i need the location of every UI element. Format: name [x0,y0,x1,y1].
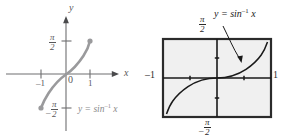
curve-equation-label: y = sin–1 x [78,103,118,115]
x-tick-label-neg1: –1 [145,70,155,80]
two-denominator: 2 [204,128,211,137]
left-graph-panel: y x 0 –1 1 π 2 – π 2 y = sin–1 x [0,0,141,138]
arcsine-graphs-figure: y x 0 –1 1 π 2 – π 2 y = sin–1 x [0,0,283,138]
curve-equation-label: y = sin–1 x [214,8,256,19]
y-tick-label-pi-over-2: π 2 [49,33,56,52]
y-tick-label-neg-pi-over-2: – π 2 [51,100,58,119]
y-tick-label-pi-over-2: π 2 [199,15,206,34]
origin-label: 0 [68,75,73,85]
equation-lhs: y = sin [214,8,242,19]
curve-endpoint-lower [38,105,43,110]
x-axis-label: x [124,68,128,78]
x-tick-label-1: 1 [273,70,278,80]
equation-exponent: –1 [104,102,110,109]
equation-rhs: x [113,104,117,114]
two-denominator: 2 [49,43,56,52]
equation-exponent: –1 [242,7,249,14]
equation-lhs: y = sin [78,104,104,114]
right-graph-svg [141,0,283,138]
two-denominator: 2 [51,110,58,119]
equation-rhs: x [251,8,255,19]
x-tick-label-1: 1 [88,79,93,88]
minus-sign: – [199,126,204,135]
curve-endpoint-upper [87,38,92,43]
right-graph-panel: π 2 – π 2 –1 1 y = sin–1 x [141,0,283,138]
y-tick-label-neg-pi-over-2: – π 2 [204,118,211,137]
y-axis-label: y [69,3,73,13]
two-denominator: 2 [199,25,206,34]
minus-sign: – [46,108,51,117]
x-tick-label-neg1: –1 [36,79,45,88]
left-graph-svg [0,0,141,138]
